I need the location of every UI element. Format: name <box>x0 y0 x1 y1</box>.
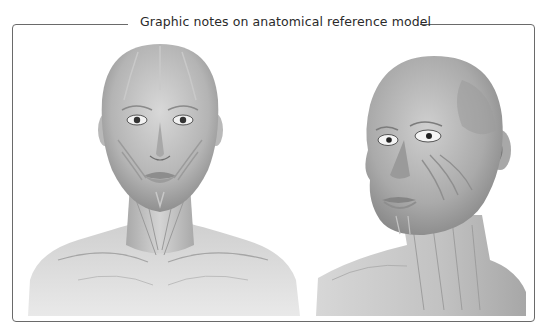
front-face-drawing <box>18 30 303 316</box>
page-title: Graphic notes on anatomical reference mo… <box>140 12 420 32</box>
front-view-illustration <box>18 30 303 316</box>
side-face-drawing <box>312 30 530 316</box>
three-quarter-view-illustration <box>312 30 530 316</box>
